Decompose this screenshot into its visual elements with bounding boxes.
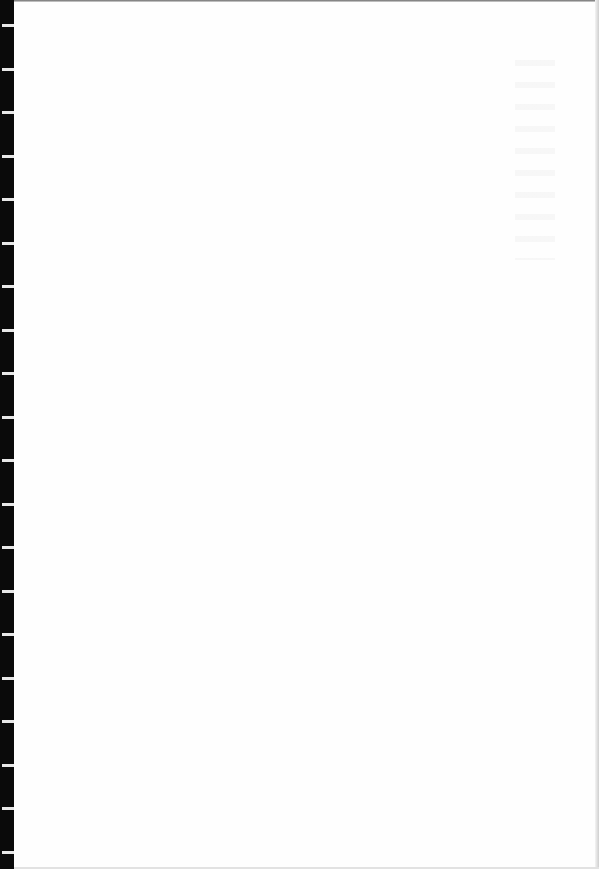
binding-tick	[2, 677, 14, 680]
binding-tick	[2, 68, 14, 71]
binding-tick	[2, 111, 14, 114]
binding-tick	[2, 24, 14, 27]
binding-tick	[2, 590, 14, 593]
binding-tick	[2, 807, 14, 810]
binding-strip	[0, 0, 14, 869]
binding-tick	[2, 372, 14, 375]
page-top-edge	[14, 0, 599, 2]
binding-tick	[2, 503, 14, 506]
binding-tick	[2, 633, 14, 636]
binding-tick	[2, 720, 14, 723]
page-right-edge	[595, 0, 599, 869]
binding-tick	[2, 285, 14, 288]
binding-tick	[2, 416, 14, 419]
binding-tick	[2, 155, 14, 158]
blank-page	[0, 0, 599, 869]
binding-tick	[2, 764, 14, 767]
binding-tick	[2, 851, 14, 854]
bleed-through-marks	[515, 60, 555, 260]
binding-tick	[2, 198, 14, 201]
binding-tick	[2, 242, 14, 245]
binding-tick	[2, 459, 14, 462]
binding-tick	[2, 329, 14, 332]
binding-tick	[2, 546, 14, 549]
